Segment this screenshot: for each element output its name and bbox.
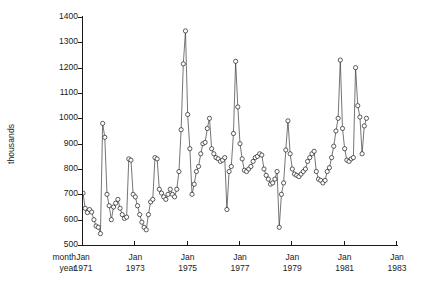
data-point (282, 181, 286, 185)
data-point (225, 207, 229, 211)
y-tick-mark (78, 42, 82, 43)
data-point (227, 169, 231, 173)
data-point (109, 218, 113, 222)
data-point (288, 152, 292, 156)
chart-figure: thousands 500600700800900100011001200130… (0, 0, 423, 287)
x-tick-month: Jan (165, 252, 211, 263)
x-tick-month: Jan (374, 252, 420, 263)
data-point (229, 164, 233, 168)
x-tick-month: Jan (322, 252, 368, 263)
data-point (279, 192, 283, 196)
data-point (138, 213, 142, 217)
y-tick-label: 1000 (36, 113, 78, 122)
y-axis-title-text: thousands (6, 123, 16, 163)
data-point (146, 213, 150, 217)
data-point (203, 140, 207, 144)
y-tick-label: 500 (36, 240, 78, 249)
data-point (107, 204, 111, 208)
y-tick-mark (78, 220, 82, 221)
data-point (240, 157, 244, 161)
data-point (303, 167, 307, 171)
x-tick-year: 1983 (374, 263, 420, 274)
data-point (266, 177, 270, 181)
data-point (275, 169, 279, 173)
x-tick-label-group: Jan1975 (165, 252, 211, 274)
data-point (83, 191, 85, 195)
data-point (356, 104, 360, 108)
data-point (188, 147, 192, 151)
data-point (96, 225, 100, 229)
data-point (181, 62, 185, 66)
x-tick-label-group: Jan1973 (112, 252, 158, 274)
y-tick-label: 600 (36, 215, 78, 224)
data-point (168, 187, 172, 191)
data-point (192, 182, 196, 186)
data-point (323, 178, 327, 182)
data-point (90, 210, 94, 214)
data-point (83, 206, 87, 210)
x-tick-month: Jan (269, 252, 315, 263)
y-tick-label: 900 (36, 139, 78, 148)
data-point (236, 105, 240, 109)
y-tick-label: 700 (36, 189, 78, 198)
x-tick-year: 1981 (322, 263, 368, 274)
data-point (164, 197, 168, 201)
x-tick-label-group: Jan1971 (60, 252, 106, 274)
data-point (327, 166, 331, 170)
data-point (277, 225, 281, 229)
x-tick-month: Jan (112, 252, 158, 263)
data-point (210, 147, 214, 151)
data-point (103, 135, 107, 139)
data-point (238, 142, 242, 146)
data-point (144, 228, 148, 232)
data-point (360, 152, 364, 156)
data-point (155, 157, 159, 161)
x-tick-label-group: Jan1981 (322, 252, 368, 274)
data-point (314, 169, 318, 173)
x-axis-tick-labels: Jan1971Jan1973Jan1975Jan1977Jan1979Jan19… (0, 252, 423, 278)
data-point (179, 128, 183, 132)
y-tick-label: 1100 (36, 88, 78, 97)
data-point (351, 156, 355, 160)
y-tick-label: 1300 (36, 37, 78, 46)
x-tick-year: 1975 (165, 263, 211, 274)
x-tick-year: 1979 (269, 263, 315, 274)
data-point (284, 148, 288, 152)
plot-area (83, 17, 397, 245)
data-point (353, 66, 357, 70)
y-axis-tick-labels: 50060070080090010001100120013001400 (32, 0, 78, 287)
data-point (290, 167, 294, 171)
y-tick-mark (78, 93, 82, 94)
y-tick-mark (78, 194, 82, 195)
data-point (151, 197, 155, 201)
data-point (336, 116, 340, 120)
y-tick-mark (78, 118, 82, 119)
data-point (260, 153, 264, 157)
data-point (231, 131, 235, 135)
data-point (358, 115, 362, 119)
data-point (129, 158, 133, 162)
data-point (172, 195, 176, 199)
data-point (332, 144, 336, 148)
data-point (362, 124, 366, 128)
x-tick-year: 1971 (60, 263, 106, 274)
data-point (125, 215, 129, 219)
data-point (262, 167, 266, 171)
x-tick-label-group: Jan1983 (374, 252, 420, 274)
data-point (186, 112, 190, 116)
y-tick-mark (78, 169, 82, 170)
y-tick-label: 800 (36, 164, 78, 173)
data-point (118, 206, 122, 210)
x-tick-month: Jan (217, 252, 263, 263)
data-point (199, 152, 203, 156)
y-tick-label: 1200 (36, 63, 78, 72)
data-point (105, 192, 109, 196)
x-tick-label-group: Jan1977 (217, 252, 263, 274)
x-tick-month: Jan (60, 252, 106, 263)
data-point (364, 116, 368, 120)
data-point (343, 147, 347, 151)
data-point (286, 119, 290, 123)
data-point (133, 195, 137, 199)
x-tick-label-group: Jan1979 (269, 252, 315, 274)
data-point (101, 121, 105, 125)
